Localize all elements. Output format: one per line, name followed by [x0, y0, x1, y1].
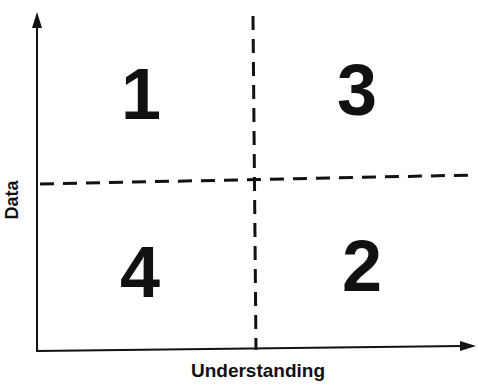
quadrant-top-right-label: 3 [337, 54, 377, 126]
y-axis-arrow-icon [32, 12, 42, 28]
x-axis-arrow-icon [460, 341, 476, 351]
horizontal-divider [40, 175, 475, 184]
quadrant-top-left-label: 1 [121, 58, 161, 130]
quadrant-bottom-right-label: 2 [342, 230, 382, 302]
y-axis-label: Data [2, 180, 23, 219]
x-axis [37, 346, 462, 351]
quadrant-axes [0, 0, 478, 385]
quadrant-bottom-left-label: 4 [120, 236, 160, 308]
x-axis-label: Understanding [191, 360, 325, 382]
vertical-divider [253, 16, 256, 350]
